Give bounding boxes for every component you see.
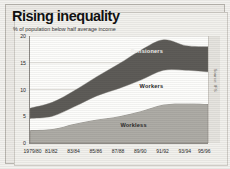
x-tick-label: 95/96 <box>198 146 211 156</box>
y-tick-label: 5 <box>12 113 26 119</box>
band-label-workless: Workless <box>120 122 146 128</box>
y-tick-label: 15 <box>12 60 26 66</box>
source-rail: Source: IFS <box>208 36 220 143</box>
stacked-area-plot <box>30 36 208 143</box>
x-tick-label: 93/94 <box>178 146 191 156</box>
chart-figure: Rising inequality % of population below … <box>0 0 230 169</box>
y-tick-label: 0 <box>12 140 26 146</box>
chart-subtitle: % of population below half average incom… <box>13 25 163 34</box>
x-tick-label: 89/90 <box>134 146 147 156</box>
source-label: Source: IFS <box>211 52 219 108</box>
x-tick-label: 83/84 <box>67 146 80 156</box>
x-tick-label: 85/86 <box>89 146 102 156</box>
y-tick-label: 20 <box>12 33 26 39</box>
plot-area <box>29 36 208 144</box>
x-tick-label: 81/82 <box>45 146 58 156</box>
band-label-pensioners: Pensioners <box>131 48 163 54</box>
area-series-group <box>30 40 208 143</box>
chart-title: Rising inequality <box>12 9 142 24</box>
x-tick-label: 91/92 <box>156 146 169 156</box>
x-tick-label: 87/88 <box>112 146 125 156</box>
x-tick-label: 1979/80 <box>24 146 42 156</box>
y-tick-label: 10 <box>12 87 26 93</box>
x-axis: 1979/8081/8283/8485/8687/8889/9091/9293/… <box>11 146 221 156</box>
band-label-workers: Workers <box>140 83 164 89</box>
